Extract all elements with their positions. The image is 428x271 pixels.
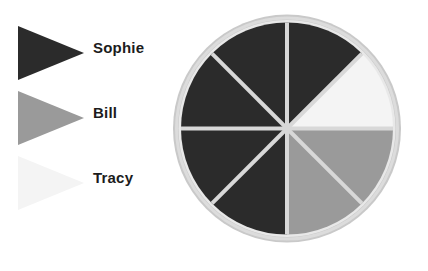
pie-chart-figure: Sophie Bill Tracy (0, 0, 428, 271)
legend-marker-pennant-icon (18, 26, 84, 80)
chart-legend: Sophie Bill Tracy (0, 0, 170, 271)
legend-item[interactable]: Sophie (0, 22, 170, 84)
legend-marker-pennant-icon (18, 156, 84, 210)
legend-item-label: Bill (93, 103, 117, 123)
pie-chart (171, 12, 403, 245)
legend-item[interactable]: Bill (0, 87, 170, 149)
legend-item-label: Sophie (93, 38, 144, 58)
pie-divider-group (181, 23, 393, 235)
legend-marker-pennant-icon (18, 91, 84, 145)
legend-item[interactable]: Tracy (0, 152, 170, 214)
legend-item-label: Tracy (93, 168, 133, 188)
